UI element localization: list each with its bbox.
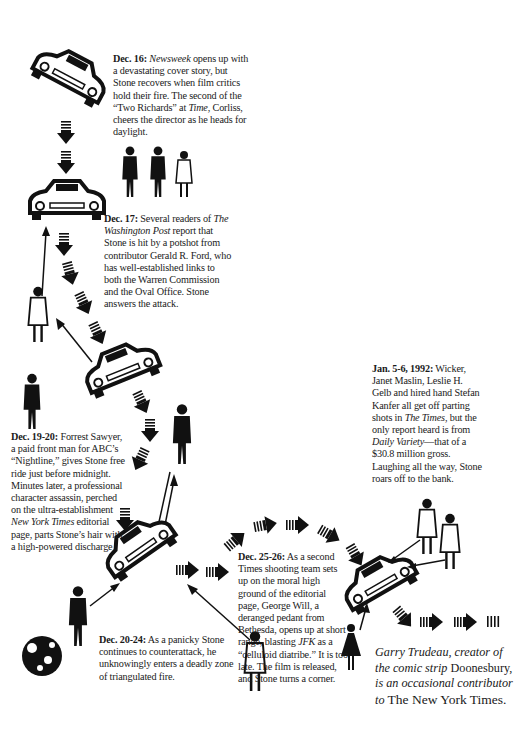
arrow-right-icon (253, 514, 279, 536)
entry-dec1920: Dec. 19-20: Forrest Sawyer, a paid front… (11, 431, 126, 553)
entry-jan56: Jan. 5-6, 1992: Wicker, Janet Maslin, Le… (372, 363, 484, 485)
entry-text: report that Stone is hit by a potshot fr… (104, 225, 231, 309)
arrow-down-icon (85, 319, 111, 347)
car-icon (337, 545, 421, 616)
arrow-right-icon (206, 563, 229, 581)
car-icon (30, 181, 104, 220)
entry-date: Dec. 20-24: (99, 634, 146, 645)
man-with-cane-figure (24, 374, 41, 429)
publication-name: The Times (405, 412, 445, 423)
tree-icon (22, 636, 62, 676)
man-in-coat-figure (28, 287, 47, 342)
publication-name: JFK (298, 636, 315, 647)
arrow-right-icon (176, 561, 199, 579)
publication-name: Time (189, 102, 208, 113)
car-icon (80, 336, 163, 400)
arrow-right-icon (286, 516, 309, 534)
arrow-down-icon (129, 388, 155, 416)
two-men-figures (417, 499, 459, 569)
publication-name: Daily Variety (372, 436, 424, 447)
plaid-shirt-man-figure (173, 404, 191, 464)
arrow-down-icon (141, 419, 159, 442)
entry-dec16: Dec. 16: Newsweek opens up with a devast… (113, 53, 251, 138)
author-credit: Garry Trudeau, creator of the comic stri… (375, 645, 514, 708)
entry-dec2024: Dec. 20-24: As a panicky Stone continues… (99, 634, 234, 683)
arrow-down-icon (58, 260, 81, 287)
newspaper-name: The New York Times. (388, 692, 507, 707)
standing-man-figure (69, 586, 87, 646)
entry-dec17: Dec. 17: Several readers of The Washingt… (104, 213, 232, 311)
entry-text: As a second Times shooting team sets up … (238, 551, 346, 647)
arrow-down-icon (57, 121, 75, 144)
arrow-down-icon (55, 233, 73, 256)
entry-date: Dec. 19-20: (11, 431, 58, 442)
publication-name: New York Times (11, 516, 74, 527)
arrow-right-icon (454, 613, 477, 631)
publication-name: Newsweek (149, 53, 190, 64)
car-icon (29, 40, 113, 109)
arrow-down-icon (127, 445, 153, 473)
entry-date: Dec. 16: (113, 53, 147, 64)
comic-strip-name: Doonesbury, (450, 661, 512, 675)
entry-date: Dec. 25-26: (238, 551, 285, 562)
arrow-down-icon (71, 289, 97, 317)
entry-text: Several readers of (138, 213, 214, 224)
entry-text: Forrest Sawyer, a paid front man for ABC… (11, 431, 125, 515)
entry-dec2526: Dec. 25-26: As a second Times shooting t… (238, 551, 348, 685)
arrow-right-icon (420, 613, 443, 631)
camera-crew-figures (122, 146, 192, 197)
entry-date: Dec. 17: (104, 213, 138, 224)
arrow-stripes-icon (487, 616, 499, 627)
arrow-right-icon (315, 521, 344, 548)
entry-date: Jan. 5-6, 1992: (372, 363, 433, 374)
arrow-right-icon (389, 603, 418, 632)
arrow-down-icon (57, 151, 75, 174)
